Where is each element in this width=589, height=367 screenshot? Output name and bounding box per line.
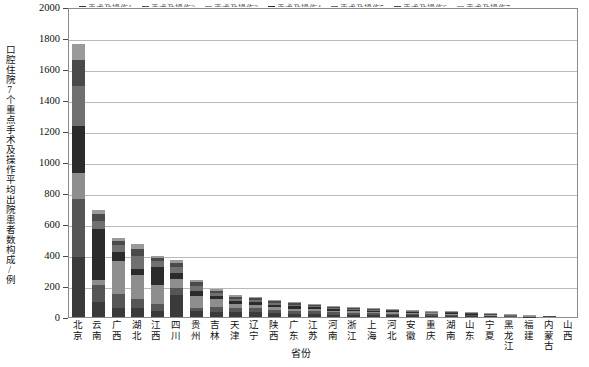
bar-segment-s5 bbox=[190, 286, 203, 291]
bar-segment-s5 bbox=[112, 245, 125, 252]
bar-column[interactable] bbox=[406, 7, 419, 317]
bar-column[interactable] bbox=[563, 7, 576, 317]
x-tick-label: 江西 bbox=[148, 320, 164, 341]
bar-segment-s3 bbox=[249, 305, 262, 308]
bar-segment-s2 bbox=[425, 314, 438, 315]
bar-segment-s1 bbox=[190, 311, 203, 317]
chart-page: 手术及操作1手术及操作2手术及操作3手术及操作4手术及操作5手术及操作6手术及操… bbox=[0, 0, 589, 367]
y-tick-label: 1400 bbox=[39, 96, 60, 106]
bar-segment-s7 bbox=[190, 280, 203, 282]
bar-column[interactable] bbox=[386, 7, 399, 317]
x-tick-label: 贵州 bbox=[188, 320, 204, 341]
x-tick-label: 湖南 bbox=[443, 320, 459, 341]
bar-segment-s7 bbox=[406, 310, 419, 311]
bar-segment-s2 bbox=[190, 308, 203, 311]
bar-segment-s2 bbox=[170, 288, 183, 295]
bar-segment-s4 bbox=[268, 305, 281, 307]
bar-column[interactable] bbox=[170, 7, 183, 317]
bar-column[interactable] bbox=[543, 7, 556, 317]
bar-column[interactable] bbox=[445, 7, 458, 317]
bar-column[interactable] bbox=[347, 7, 360, 317]
bar-column[interactable] bbox=[367, 7, 380, 317]
bar-column[interactable] bbox=[210, 7, 223, 317]
x-tick-label: 广东 bbox=[286, 320, 302, 341]
bar-column[interactable] bbox=[523, 7, 536, 317]
bar-segment-s3 bbox=[406, 313, 419, 314]
bar-segment-s3 bbox=[484, 315, 497, 316]
bar-segment-s1 bbox=[210, 312, 223, 317]
bar-column[interactable] bbox=[465, 7, 478, 317]
bar-segment-s7 bbox=[308, 304, 321, 305]
bar-segment-s5 bbox=[229, 299, 242, 301]
bar-segment-s3 bbox=[288, 309, 301, 311]
bar-segment-s5 bbox=[249, 300, 262, 302]
bar-segment-s4 bbox=[367, 311, 380, 312]
x-tick-label: 辽宁 bbox=[246, 320, 262, 341]
bar-segment-s2 bbox=[367, 313, 380, 315]
bar-column[interactable] bbox=[249, 7, 262, 317]
bar-segment-s3 bbox=[151, 285, 164, 304]
bar-segment-s2 bbox=[406, 314, 419, 315]
bar-segment-s6 bbox=[249, 298, 262, 300]
bar-segment-s3 bbox=[347, 311, 360, 313]
bar-column[interactable] bbox=[72, 7, 85, 317]
x-tick-label: 吉林 bbox=[207, 320, 223, 341]
bar-segment-s4 bbox=[386, 311, 399, 312]
x-tick-label: 天津 bbox=[227, 320, 243, 341]
bar-segment-s5 bbox=[72, 86, 85, 126]
bar-segment-s5 bbox=[425, 312, 438, 313]
bar-segment-s6 bbox=[170, 263, 183, 268]
bar-column[interactable] bbox=[92, 7, 105, 317]
bar-column[interactable] bbox=[229, 7, 242, 317]
bar-segment-s3 bbox=[367, 312, 380, 314]
bar-column[interactable] bbox=[425, 7, 438, 317]
bar-segment-s7 bbox=[288, 302, 301, 303]
bar-segment-s4 bbox=[465, 314, 478, 315]
bar-segment-s3 bbox=[112, 261, 125, 294]
bar-segment-s3 bbox=[131, 275, 144, 299]
bar-segment-s7 bbox=[347, 307, 360, 308]
bar-segment-s7 bbox=[249, 297, 262, 298]
x-tick-label: 河南 bbox=[325, 320, 341, 341]
bar-segment-s1 bbox=[268, 313, 281, 317]
bar-column[interactable] bbox=[504, 7, 517, 317]
bar-segment-s3 bbox=[268, 307, 281, 310]
bar-segment-s2 bbox=[268, 310, 281, 313]
bar-segment-s2 bbox=[72, 199, 85, 256]
bar-column[interactable] bbox=[151, 7, 164, 317]
bar-column[interactable] bbox=[308, 7, 321, 317]
bar-segment-s3 bbox=[210, 299, 223, 307]
bar-segment-s6 bbox=[386, 310, 399, 311]
bar-segment-s1 bbox=[288, 314, 301, 317]
bar-segment-s7 bbox=[210, 289, 223, 291]
bar-segment-s2 bbox=[112, 294, 125, 308]
bar-segment-s1 bbox=[131, 308, 144, 317]
bar-segment-s5 bbox=[445, 312, 458, 313]
bar-segment-s6 bbox=[308, 305, 321, 306]
bar-segment-s5 bbox=[288, 305, 301, 307]
bar-segment-s4 bbox=[151, 267, 164, 285]
bar-segment-s1 bbox=[367, 315, 380, 317]
bar-segment-s2 bbox=[249, 308, 262, 312]
bar-segment-s4 bbox=[445, 313, 458, 314]
x-tick-label: 浙江 bbox=[344, 320, 360, 341]
y-tick-label: 400 bbox=[44, 251, 60, 261]
bar-column[interactable] bbox=[112, 7, 125, 317]
bar-segment-s1 bbox=[308, 314, 321, 317]
bar-column[interactable] bbox=[288, 7, 301, 317]
bar-segment-s7 bbox=[327, 306, 340, 307]
y-tick-mark bbox=[63, 318, 68, 319]
bar-segment-s3 bbox=[425, 313, 438, 314]
bar-segment-s2 bbox=[445, 315, 458, 316]
bar-segment-s1 bbox=[465, 316, 478, 317]
bar-column[interactable] bbox=[131, 7, 144, 317]
bar-column[interactable] bbox=[484, 7, 497, 317]
bar-column[interactable] bbox=[327, 7, 340, 317]
bar-column[interactable] bbox=[268, 7, 281, 317]
bar-column[interactable] bbox=[190, 7, 203, 317]
bar-segment-s4 bbox=[170, 273, 183, 279]
legend-item-6: 手术及操作6 bbox=[394, 5, 447, 7]
bar-segment-s1 bbox=[92, 302, 105, 318]
bar-segment-s7 bbox=[112, 238, 125, 241]
bar-segment-s3 bbox=[308, 309, 321, 311]
